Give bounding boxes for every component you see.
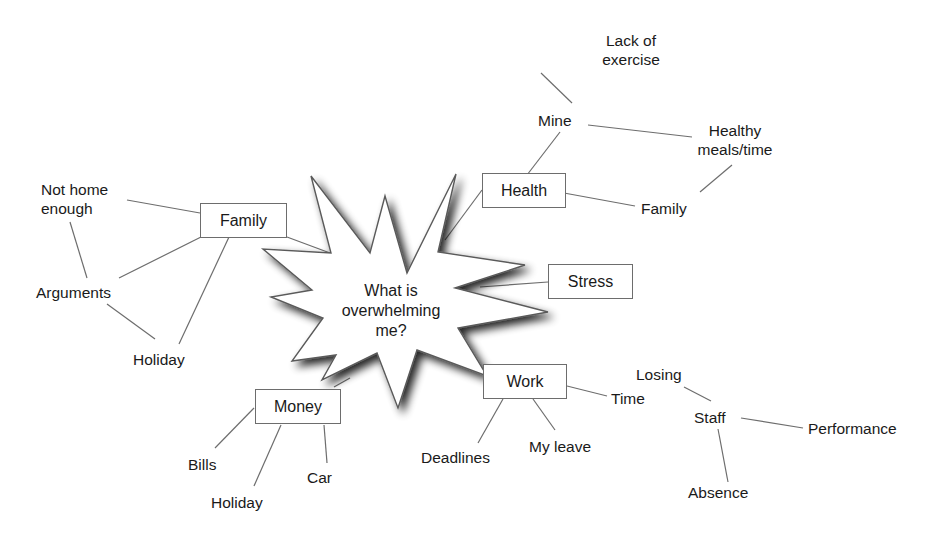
node-healthy-meals-line-2: meals/time [698, 140, 773, 159]
topic-box-family: Family [200, 203, 287, 238]
topic-box-money: Money [255, 389, 341, 424]
topic-label-stress: Stress [568, 273, 613, 291]
node-family-holiday: Holiday [133, 350, 185, 369]
central-question-line-3: me? [342, 321, 441, 341]
node-healthy-meals-time: Healthy meals/time [698, 121, 773, 159]
topic-label-work: Work [506, 373, 543, 391]
node-lack-of-exercise-line-1: Lack of [602, 31, 660, 50]
node-healthy-meals-line-1: Healthy [698, 121, 773, 140]
node-absence: Absence [688, 483, 748, 502]
topic-label-health: Health [501, 182, 547, 200]
central-question-line-2: overwhelming [342, 301, 441, 321]
topic-box-health: Health [482, 173, 566, 208]
node-mine: Mine [538, 111, 572, 130]
node-bills: Bills [188, 455, 216, 474]
node-lack-of-exercise-line-2: exercise [602, 50, 660, 69]
node-car: Car [307, 468, 332, 487]
node-not-home-enough-line-1: Not home [41, 180, 108, 199]
topic-label-money: Money [274, 398, 322, 416]
topic-label-family: Family [220, 212, 267, 230]
node-not-home-enough-line-2: enough [41, 199, 108, 218]
central-question: What is overwhelming me? [342, 281, 441, 341]
central-question-line-1: What is [342, 281, 441, 301]
node-deadlines: Deadlines [421, 448, 490, 467]
node-time: Time [611, 389, 645, 408]
node-not-home-enough: Not home enough [41, 180, 108, 218]
node-health-family: Family [641, 199, 687, 218]
node-losing: Losing [636, 365, 682, 384]
topic-box-work: Work [483, 364, 567, 399]
node-lack-of-exercise: Lack of exercise [602, 31, 660, 69]
node-arguments: Arguments [36, 283, 111, 302]
node-performance: Performance [808, 419, 897, 438]
node-my-leave: My leave [529, 437, 591, 456]
node-staff: Staff [694, 408, 726, 427]
topic-box-stress: Stress [548, 264, 633, 299]
node-money-holiday: Holiday [211, 493, 263, 512]
